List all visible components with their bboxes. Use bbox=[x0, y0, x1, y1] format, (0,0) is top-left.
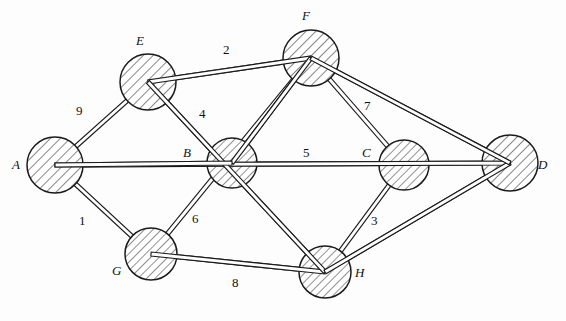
node-label-f: F bbox=[302, 8, 310, 24]
node-label-d: D bbox=[538, 157, 547, 173]
node-label-b: B bbox=[183, 145, 191, 161]
node-label-a: A bbox=[12, 157, 20, 173]
node-label-c: C bbox=[362, 145, 371, 161]
edge-weight-g-f: 6 bbox=[192, 211, 199, 227]
node-label-e: E bbox=[136, 33, 144, 49]
edge-weight-f-c: 7 bbox=[364, 98, 371, 114]
node-label-h: H bbox=[355, 265, 364, 281]
edge-weight-a-e: 9 bbox=[76, 103, 83, 119]
graph-edge-overlay bbox=[230, 57, 312, 164]
graph-svg bbox=[0, 0, 566, 321]
graph-edge-overlay bbox=[151, 252, 325, 274]
edge-weight-e-f: 2 bbox=[223, 42, 230, 58]
nodes-layer bbox=[27, 30, 538, 298]
graph-diagram-canvas: ABCDEFGH 294165738 bbox=[0, 0, 566, 321]
edge-weight-a-g: 1 bbox=[79, 213, 86, 229]
edge-weight-g-h: 8 bbox=[232, 275, 239, 291]
edge-weight-a-d: 5 bbox=[303, 145, 310, 161]
node-label-g: G bbox=[112, 263, 121, 279]
edge-weight-e-h: 4 bbox=[199, 106, 206, 122]
edge-weight-c-h: 3 bbox=[371, 213, 378, 229]
